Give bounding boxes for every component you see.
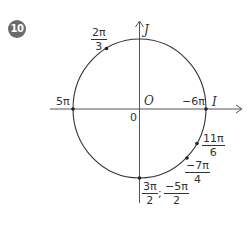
label-minus-6pi: −6π bbox=[182, 96, 205, 108]
label-5pi: 5π bbox=[56, 96, 70, 108]
label-2pi-over-3: 2π 3 bbox=[91, 27, 107, 52]
point-11pi-over-6 bbox=[195, 142, 199, 146]
numerator: −7π bbox=[185, 160, 210, 173]
numerator: 11π bbox=[202, 133, 225, 146]
numerator: 2π bbox=[91, 27, 107, 40]
origin-value-zero: 0 bbox=[130, 112, 137, 124]
numerator: 3π bbox=[142, 181, 158, 194]
label-3pi-over-2: 3π 2 bbox=[142, 181, 158, 206]
denominator: 6 bbox=[210, 146, 217, 158]
label-separator: ; bbox=[158, 187, 162, 200]
label-minus-5pi-over-2: −5π 2 bbox=[164, 181, 189, 206]
point-5pi bbox=[71, 107, 75, 111]
denominator: 3 bbox=[95, 40, 102, 52]
label-11pi-over-6: 11π 6 bbox=[202, 133, 225, 158]
exercise-number-badge: 10 bbox=[8, 20, 26, 38]
denominator: 2 bbox=[146, 194, 153, 206]
axis-label-j: J bbox=[144, 24, 149, 36]
origin-label-o: O bbox=[144, 95, 154, 107]
numerator: −5π bbox=[164, 181, 189, 194]
axis-label-i: I bbox=[212, 96, 217, 108]
denominator: 4 bbox=[194, 173, 201, 185]
point-3pi-over-2 bbox=[138, 176, 142, 180]
denominator: 2 bbox=[173, 194, 180, 206]
